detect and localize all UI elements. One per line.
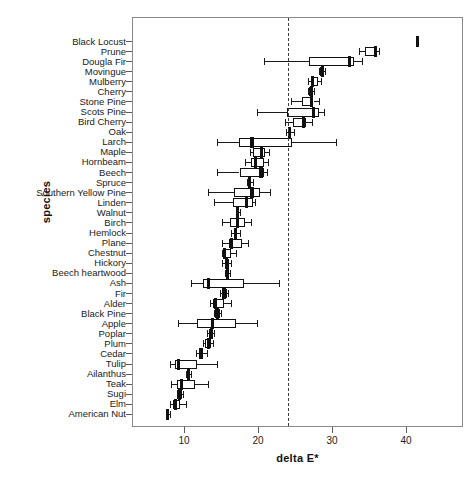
whisker-cap-high bbox=[183, 391, 184, 398]
whisker-cap-high bbox=[267, 169, 268, 176]
whisker-cap-low bbox=[359, 48, 360, 55]
whisker-cap-high bbox=[314, 88, 315, 95]
whisker-high bbox=[260, 192, 270, 193]
whisker-cap-low bbox=[170, 361, 171, 368]
whisker-high bbox=[236, 323, 257, 324]
whisker-cap-high bbox=[207, 350, 208, 357]
x-axis-tick bbox=[184, 427, 185, 433]
whisker-cap-high bbox=[336, 139, 337, 146]
x-axis-title: delta E* bbox=[132, 452, 463, 464]
whisker-cap-low bbox=[178, 320, 179, 327]
whisker-cap-low bbox=[250, 149, 251, 156]
whisker-cap-low bbox=[257, 109, 258, 116]
whisker-cap-high bbox=[186, 401, 187, 408]
boxplot-box bbox=[0, 409, 476, 420]
whisker-low bbox=[257, 112, 287, 113]
whisker-cap-high bbox=[319, 98, 320, 105]
whisker-cap-high bbox=[279, 280, 280, 287]
whisker-cap-high bbox=[240, 230, 241, 237]
whisker-high bbox=[224, 303, 231, 304]
whisker-cap-high bbox=[325, 68, 326, 75]
whisker-cap-high bbox=[221, 310, 222, 317]
boxplot-figure: species Black LocustPruneDougla FirMovin… bbox=[0, 0, 476, 478]
whisker-cap-low bbox=[231, 230, 232, 237]
whisker-high bbox=[354, 61, 362, 62]
whisker-cap-low bbox=[217, 169, 218, 176]
whisker-cap-high bbox=[214, 330, 215, 337]
whisker-low bbox=[191, 283, 203, 284]
whisker-cap-low bbox=[222, 219, 223, 226]
x-axis-tick-label: 40 bbox=[391, 435, 421, 446]
whisker-cap-high bbox=[248, 240, 249, 247]
whisker-cap-high bbox=[251, 219, 252, 226]
whisker-cap-high bbox=[324, 109, 325, 116]
whisker-cap-low bbox=[170, 401, 171, 408]
whisker-high bbox=[195, 384, 208, 385]
whisker-cap-low bbox=[222, 260, 223, 267]
whisker-cap-high bbox=[321, 78, 322, 85]
whisker-low bbox=[285, 122, 292, 123]
whisker-cap-low bbox=[308, 78, 309, 85]
whisker-cap-high bbox=[379, 48, 380, 55]
whisker-cap-low bbox=[245, 159, 246, 166]
whisker-cap-low bbox=[264, 58, 265, 65]
whisker-cap-high bbox=[240, 209, 241, 216]
whisker-cap-low bbox=[208, 189, 209, 196]
whisker-low bbox=[217, 142, 238, 143]
whisker-cap-low bbox=[196, 350, 197, 357]
whisker-cap-low bbox=[207, 330, 208, 337]
whisker-cap-high bbox=[362, 58, 363, 65]
reference-line bbox=[288, 18, 289, 426]
whisker-cap-high bbox=[268, 159, 269, 166]
whisker-cap-high bbox=[191, 371, 192, 378]
iqr-box bbox=[197, 319, 236, 328]
whisker-high bbox=[244, 283, 279, 284]
whisker-cap-high bbox=[208, 381, 209, 388]
iqr-box bbox=[234, 188, 261, 197]
whisker-cap-high bbox=[294, 129, 295, 136]
iqr-box bbox=[239, 138, 292, 147]
whisker-cap-low bbox=[203, 340, 204, 347]
whisker-low bbox=[217, 172, 240, 173]
x-axis-tick bbox=[406, 427, 407, 433]
whisker-cap-high bbox=[213, 340, 214, 347]
whisker-high bbox=[292, 142, 336, 143]
whisker-high bbox=[197, 364, 217, 365]
whisker-cap-low bbox=[217, 139, 218, 146]
whisker-cap-high bbox=[231, 300, 232, 307]
whisker-low bbox=[178, 323, 197, 324]
whisker-low bbox=[264, 61, 309, 62]
whisker-low bbox=[222, 222, 230, 223]
whisker-cap-low bbox=[191, 280, 192, 287]
whisker-cap-high bbox=[257, 320, 258, 327]
x-axis-tick-label: 20 bbox=[243, 435, 273, 446]
whisker-low bbox=[208, 192, 234, 193]
whisker-cap-low bbox=[214, 199, 215, 206]
whisker-cap-high bbox=[253, 179, 254, 186]
whisker-cap-high bbox=[230, 270, 231, 277]
whisker-cap-high bbox=[236, 250, 237, 257]
whisker-cap-high bbox=[170, 411, 171, 418]
whisker-cap-high bbox=[231, 260, 232, 267]
whisker-cap-low bbox=[220, 290, 221, 297]
whisker-cap-high bbox=[217, 361, 218, 368]
whisker-cap-high bbox=[312, 119, 313, 126]
x-axis-tick bbox=[332, 427, 333, 433]
median-marker bbox=[166, 409, 169, 420]
whisker-cap-low bbox=[291, 98, 292, 105]
whisker-cap-low bbox=[210, 300, 211, 307]
iqr-box bbox=[233, 198, 253, 207]
whisker-cap-high bbox=[270, 189, 271, 196]
whisker-cap-low bbox=[222, 240, 223, 247]
whisker-low bbox=[214, 202, 233, 203]
whisker-cap-high bbox=[269, 149, 270, 156]
whisker-cap-high bbox=[228, 290, 229, 297]
x-axis-tick bbox=[258, 427, 259, 433]
x-axis-tick-label: 10 bbox=[169, 435, 199, 446]
whisker-cap-low bbox=[171, 381, 172, 388]
whisker-cap-high bbox=[255, 199, 256, 206]
whisker-cap-low bbox=[285, 119, 286, 126]
x-axis-tick-label: 30 bbox=[317, 435, 347, 446]
whisker-low bbox=[291, 101, 301, 102]
